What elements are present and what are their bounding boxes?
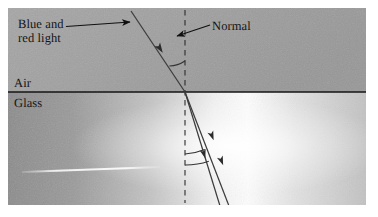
source-label-line1: Blue and	[18, 17, 64, 31]
refraction-figure: Blue andred light Normal Air Glass	[0, 0, 378, 217]
source-label-line2: red light	[18, 31, 61, 45]
source-label: Blue andred light	[18, 17, 64, 45]
medium-label-air: Air	[14, 76, 31, 90]
medium-label-glass: Glass	[14, 96, 42, 110]
glass-region	[8, 92, 366, 205]
normal-label: Normal	[212, 19, 251, 33]
